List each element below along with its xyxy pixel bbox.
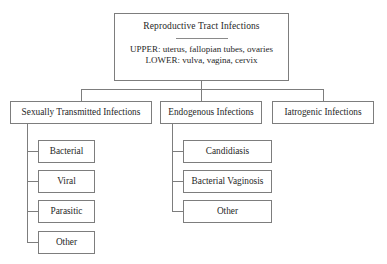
connector-endogenous-elbow-other <box>172 211 183 212</box>
node-bacterial: Bacterial <box>38 140 95 163</box>
connector-drop-endogenous <box>201 89 202 101</box>
connector-sti-elbow-bacterial <box>27 151 38 152</box>
connector-drop-sti <box>81 89 82 101</box>
node-reproductive-tract-infections: Reproductive Tract Infections UPPER: ute… <box>114 13 289 81</box>
node-viral: Viral <box>38 170 95 193</box>
connector-sti-elbow-parasitic <box>27 211 38 212</box>
connector-sti-elbow-viral <box>27 181 38 182</box>
connector-endogenous-elbow-bacterial-vaginosis <box>172 181 183 182</box>
node-sexually-transmitted-infections: Sexually Transmitted Infections <box>10 101 152 124</box>
node-endogenous-other: Other <box>183 200 272 223</box>
connector-sti-elbow-other <box>27 242 38 243</box>
root-title: Reproductive Tract Infections <box>143 21 259 33</box>
connector-endogenous-elbow-candidiasis <box>172 151 183 152</box>
node-iatrogenic-infections: Iatrogenic Infections <box>272 101 374 124</box>
root-detail-upper: UPPER: uterus, fallopian tubes, ovaries <box>130 44 273 55</box>
root-detail-lower: LOWER: vulva, vagina, cervix <box>145 55 257 66</box>
root-divider-rule <box>176 38 228 39</box>
connector-sti-spine <box>27 124 28 243</box>
node-parasitic: Parasitic <box>38 200 95 223</box>
node-endogenous-infections: Endogenous Infections <box>160 101 262 124</box>
connector-level2-bar <box>81 89 324 90</box>
node-sti-other: Other <box>38 231 95 254</box>
connector-drop-iatrogenic <box>323 89 324 101</box>
node-candidiasis: Candidiasis <box>183 140 272 163</box>
infection-classification-diagram: Reproductive Tract Infections UPPER: ute… <box>0 0 387 264</box>
connector-endogenous-spine <box>172 124 173 212</box>
node-bacterial-vaginosis: Bacterial Vaginosis <box>183 170 272 193</box>
